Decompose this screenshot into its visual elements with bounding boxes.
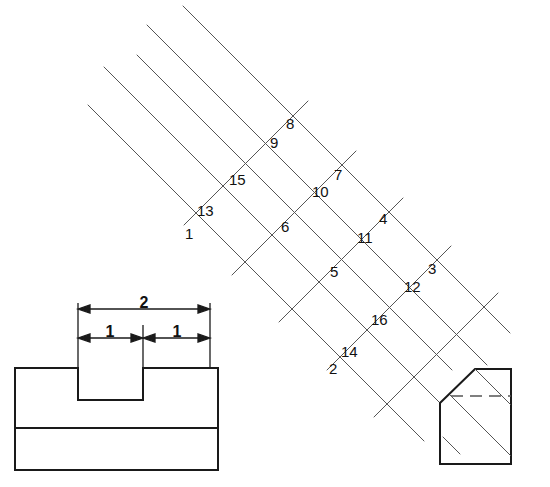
end-face — [440, 369, 511, 464]
surface-label-11: 11 — [357, 229, 373, 246]
arrowhead-overall-right — [198, 305, 210, 313]
surface-label-1: 1 — [185, 225, 193, 242]
arrowhead-right-end — [198, 334, 210, 342]
arrowhead-overall-left — [78, 305, 90, 313]
surface-label-16: 16 — [371, 311, 388, 328]
surface-label-4: 4 — [379, 210, 387, 227]
long-edge-1 — [183, 6, 510, 333]
dimension-overall-text: 2 — [140, 294, 149, 311]
end-diagonal-2 — [450, 395, 511, 456]
arrowhead-right-start — [143, 334, 155, 342]
surface-label-10: 10 — [312, 183, 329, 200]
surface-label-12: 12 — [404, 278, 421, 295]
pictorial-view-group: 1 2 3 4 5 6 7 8 9 10 11 12 13 14 15 16 — [88, 6, 511, 464]
surface-label-15: 15 — [229, 171, 246, 188]
surface-label-group: 1 2 3 4 5 6 7 8 9 10 11 12 13 14 15 16 — [185, 115, 436, 377]
end-face-outline — [440, 369, 511, 464]
front-view-outline — [15, 368, 218, 470]
dimension-left-text: 1 — [106, 323, 115, 340]
surface-label-3: 3 — [428, 260, 436, 277]
dimension-extension-lines — [78, 303, 210, 368]
surface-label-7: 7 — [334, 166, 342, 183]
surface-label-2: 2 — [329, 360, 337, 377]
prism-long-edges — [88, 6, 510, 454]
arrowhead-left-start — [78, 334, 90, 342]
engineering-drawing: 1 2 3 4 5 6 7 8 9 10 11 12 13 14 15 16 — [0, 0, 550, 487]
surface-label-9: 9 — [270, 134, 278, 151]
surface-label-14: 14 — [341, 343, 358, 360]
dimension-right-text: 1 — [173, 323, 182, 340]
long-edge-6 — [443, 437, 460, 454]
surface-label-6: 6 — [281, 218, 289, 235]
end-diagonal-1 — [475, 369, 511, 405]
long-edge-5 — [88, 105, 424, 441]
front-view-group: 2 1 1 — [15, 294, 218, 470]
end-face-diagonals — [450, 369, 511, 456]
surface-label-13: 13 — [197, 202, 214, 219]
surface-label-5: 5 — [330, 263, 338, 280]
surface-label-8: 8 — [286, 115, 294, 132]
